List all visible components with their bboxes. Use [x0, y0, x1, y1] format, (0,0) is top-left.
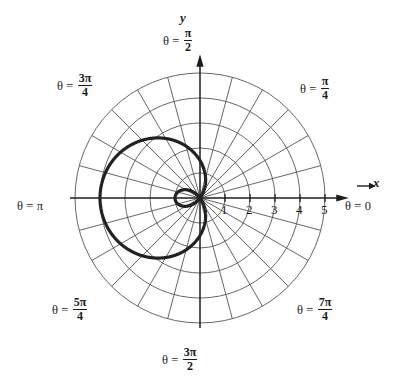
angle-label-theta-7pi-over-4: θ = 7π4 [297, 297, 332, 324]
y-axis-label: y [180, 10, 186, 26]
grid-spoke-255deg [168, 198, 200, 319]
grid-spoke-120deg [138, 90, 201, 198]
pi-glyph: π [37, 199, 43, 213]
angle-label-theta-5pi-over-4: θ = 5π4 [52, 297, 87, 324]
fraction-5pi-over-4: 5π4 [73, 296, 88, 323]
radial-tick-label-5: 5 [321, 202, 328, 218]
grid-spoke-300deg [200, 198, 263, 306]
radial-tick-label-2: 2 [246, 202, 253, 218]
y-axis-arrowhead [196, 54, 203, 67]
fraction-3pi-over-4: 3π4 [78, 72, 93, 99]
theta-eq-text: θ = [163, 34, 183, 48]
grid-spoke-30deg [200, 136, 308, 199]
polar-plot-canvas [0, 0, 396, 387]
polar-plot-figure: y x θ = π2 θ = π4 θ = 3π4 θ = π θ = 0 θ … [0, 0, 396, 387]
x-axis-label: x [373, 175, 380, 191]
radial-tick-label-4: 4 [296, 202, 303, 218]
grid-spoke-165deg [79, 166, 200, 198]
grid-spoke-15deg [200, 166, 321, 198]
zero-glyph: 0 [365, 199, 371, 213]
angle-label-theta-3pi-over-2: θ = 3π2 [162, 347, 197, 374]
angle-label-theta-pi: θ = π [17, 200, 43, 213]
angle-label-theta-3pi-over-4: θ = 3π4 [57, 73, 92, 100]
fraction-pi-over-2: π2 [184, 27, 193, 54]
grid-spoke-225deg [112, 198, 200, 286]
grid-spoke-330deg [200, 198, 308, 261]
fraction-3pi-over-2: 3π2 [183, 346, 198, 373]
angle-label-theta-pi-over-4: θ = π4 [300, 76, 329, 103]
angle-label-theta-zero: θ = 0 [345, 200, 371, 213]
radial-tick-label-3: 3 [271, 202, 278, 218]
grid-spoke-60deg [200, 90, 263, 198]
grid-spoke-135deg [112, 110, 200, 198]
grid-spoke-195deg [79, 198, 200, 230]
grid-spoke-45deg [200, 110, 288, 198]
fraction-7pi-over-4: 7π4 [318, 296, 333, 323]
fraction-pi-over-4: π4 [321, 75, 330, 102]
radial-tick-label-1: 1 [221, 202, 228, 218]
grid-spoke-240deg [138, 198, 201, 306]
angle-label-theta-pi-over-2: θ = π2 [163, 28, 192, 55]
grid-spoke-105deg [168, 77, 200, 198]
